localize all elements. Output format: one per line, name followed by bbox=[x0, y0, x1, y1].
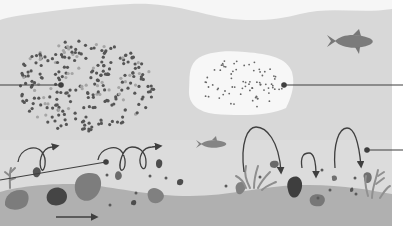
suspended-particle bbox=[81, 120, 84, 123]
suspended-particle bbox=[133, 92, 136, 95]
suspended-particle bbox=[70, 51, 73, 54]
suspended-particle bbox=[39, 73, 42, 76]
suspended-particle bbox=[122, 62, 125, 65]
fine-particle bbox=[272, 85, 274, 87]
fine-particle bbox=[242, 87, 244, 89]
fine-particle bbox=[254, 61, 256, 63]
fine-particle bbox=[224, 90, 226, 92]
suspended-particle bbox=[65, 123, 68, 126]
suspended-particle bbox=[123, 74, 126, 77]
suspended-particle bbox=[132, 75, 135, 78]
suspended-particle bbox=[108, 67, 111, 70]
suspended-particle bbox=[109, 61, 112, 64]
suspended-particle bbox=[144, 106, 147, 109]
suspended-particle bbox=[49, 87, 52, 90]
fine-particle bbox=[248, 83, 250, 85]
suspended-particle bbox=[73, 59, 76, 62]
suspended-particle bbox=[78, 52, 81, 55]
suspended-particle bbox=[102, 84, 105, 87]
suspended-particle bbox=[93, 83, 96, 86]
suspended-particle bbox=[92, 93, 95, 96]
suspended-particle bbox=[57, 108, 60, 111]
suspended-particle bbox=[131, 56, 134, 59]
suspended-particle bbox=[82, 106, 85, 109]
fine-particle bbox=[256, 81, 258, 83]
suspended-particle bbox=[30, 55, 33, 58]
fine-particle bbox=[230, 73, 232, 75]
fine-particle bbox=[231, 77, 233, 79]
suspended-particle bbox=[128, 74, 131, 77]
suspended-particle bbox=[137, 103, 140, 106]
suspended-particle bbox=[127, 60, 130, 63]
fine-particle bbox=[223, 66, 225, 68]
suspended-particle bbox=[134, 62, 137, 65]
suspended-particle bbox=[100, 60, 103, 63]
suspended-particle bbox=[100, 49, 103, 52]
fine-particle bbox=[249, 90, 251, 92]
suspended-particle bbox=[59, 91, 62, 94]
suspended-particle bbox=[63, 113, 66, 116]
suspended-particle bbox=[88, 122, 91, 125]
suspended-particle bbox=[27, 74, 30, 77]
loose-particle bbox=[225, 185, 228, 188]
fine-particle bbox=[205, 81, 207, 83]
suspended-particle bbox=[66, 45, 69, 48]
fine-particle bbox=[278, 88, 280, 90]
suspended-particle bbox=[102, 64, 105, 67]
suspended-particle bbox=[57, 44, 60, 47]
suspended-particle bbox=[137, 66, 140, 69]
suspended-particle bbox=[33, 89, 36, 92]
suspended-particle bbox=[121, 116, 124, 119]
suspended-particle bbox=[59, 124, 62, 127]
suspended-particle bbox=[46, 106, 49, 109]
loose-particle bbox=[317, 197, 320, 200]
loose-particle bbox=[135, 192, 138, 195]
suspended-particle bbox=[84, 57, 87, 60]
fine-particle bbox=[259, 82, 261, 84]
suspended-particle bbox=[96, 84, 99, 87]
suspended-particle bbox=[80, 85, 83, 88]
fine-particle bbox=[253, 70, 255, 72]
fine-particle bbox=[252, 100, 254, 102]
suspended-particle bbox=[101, 81, 104, 84]
suspended-particle bbox=[90, 125, 93, 128]
suspended-particle bbox=[147, 70, 150, 73]
suspended-particle bbox=[64, 41, 67, 44]
suspended-particle bbox=[42, 96, 45, 99]
suspended-particle bbox=[122, 98, 125, 101]
fine-particle bbox=[230, 103, 232, 105]
suspended-particle bbox=[124, 80, 127, 83]
suspended-particle bbox=[48, 95, 51, 98]
suspended-particle bbox=[96, 64, 99, 67]
suspended-particle bbox=[92, 66, 95, 69]
suspended-particle bbox=[74, 51, 77, 54]
suspended-particle bbox=[46, 102, 49, 105]
suspended-particle bbox=[97, 123, 100, 126]
suspended-particle bbox=[20, 94, 23, 97]
fine-particle bbox=[222, 63, 224, 65]
fine-particle bbox=[208, 86, 210, 88]
suspended-particle bbox=[36, 115, 39, 118]
suspended-particle bbox=[146, 85, 149, 88]
suspended-particle bbox=[66, 91, 69, 94]
fine-particle bbox=[245, 85, 247, 87]
suspended-particle bbox=[46, 59, 49, 62]
suspended-particle bbox=[39, 58, 42, 61]
fine-particle bbox=[242, 81, 244, 83]
suspended-particle bbox=[124, 53, 127, 56]
suspended-particle bbox=[77, 40, 80, 43]
suspended-particle bbox=[70, 46, 73, 49]
suspended-particle bbox=[32, 102, 35, 105]
suspended-particle bbox=[102, 56, 105, 59]
suspended-particle bbox=[51, 107, 54, 110]
suspended-particle bbox=[39, 103, 42, 106]
suspended-particle bbox=[89, 76, 92, 79]
suspended-particle bbox=[53, 119, 56, 122]
suspended-particle bbox=[56, 91, 59, 94]
suspended-particle bbox=[28, 110, 31, 113]
fine-particle bbox=[231, 86, 233, 88]
suspended-particle bbox=[43, 55, 46, 58]
fine-particle bbox=[265, 83, 267, 85]
suspended-particle bbox=[95, 43, 98, 46]
suspended-particle bbox=[20, 72, 23, 75]
